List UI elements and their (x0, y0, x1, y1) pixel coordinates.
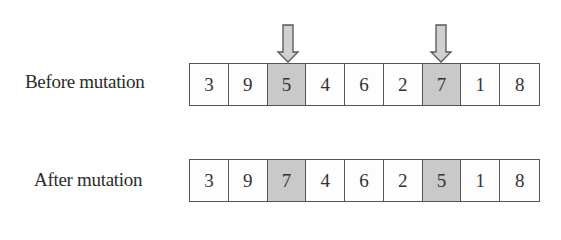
array-cell: 1 (461, 160, 500, 201)
array-cell: 1 (461, 64, 500, 105)
array-cell: 8 (500, 160, 539, 201)
down-arrow-icon (276, 24, 300, 64)
array-cell-swapped: 5 (423, 160, 462, 201)
array-cell: 3 (190, 160, 229, 201)
before-mutation-label: Before mutation (25, 71, 145, 93)
array-cell: 4 (306, 160, 345, 201)
array-cell-selected: 7 (423, 64, 462, 105)
array-cell: 8 (500, 64, 539, 105)
array-cell-swapped: 7 (268, 160, 307, 201)
array-cell: 9 (229, 160, 268, 201)
after-mutation-array: 3 9 7 4 6 2 5 1 8 (189, 159, 540, 202)
array-cell: 2 (384, 160, 423, 201)
array-cell: 6 (345, 64, 384, 105)
array-cell: 4 (306, 64, 345, 105)
before-mutation-array: 3 9 5 4 6 2 7 1 8 (189, 63, 540, 106)
array-cell: 2 (384, 64, 423, 105)
array-cell: 9 (229, 64, 268, 105)
down-arrow-icon (429, 24, 453, 64)
array-cell: 6 (345, 160, 384, 201)
after-mutation-label: After mutation (34, 169, 142, 191)
array-cell-selected: 5 (268, 64, 307, 105)
array-cell: 3 (190, 64, 229, 105)
